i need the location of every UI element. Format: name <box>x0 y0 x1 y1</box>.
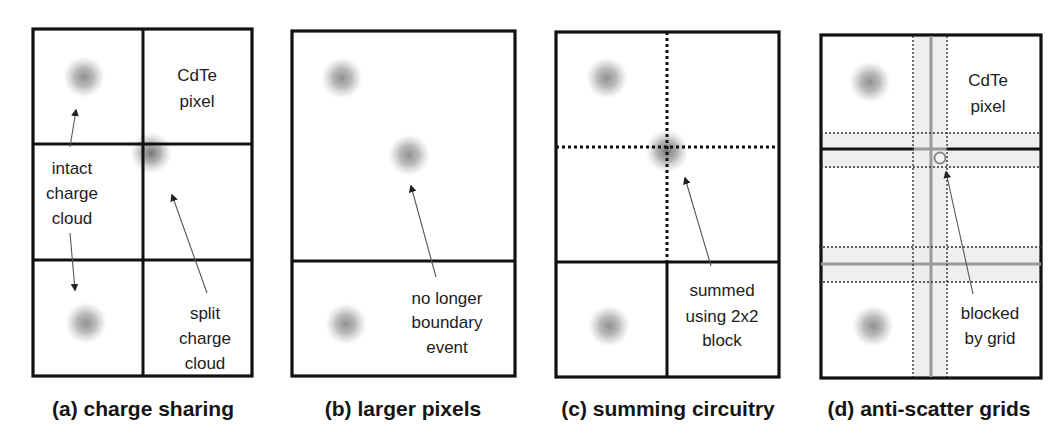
summed-2x2-block-label: block <box>702 331 742 350</box>
panel-caption: (b) larger pixels <box>325 397 481 420</box>
no-longer-boundary-event-label: no longer <box>412 289 483 308</box>
panel-c-summing-circuitry: summed using 2x2 block (c) summing circu… <box>556 32 779 420</box>
no-longer-boundary-event-label: event <box>426 338 468 357</box>
cdte-pixel-label: pixel <box>180 92 215 111</box>
intact-charge-cloud-label: intact <box>52 159 93 178</box>
blocked-event-circle-icon <box>935 153 946 164</box>
charge-cloud-icon <box>320 56 364 100</box>
panel-a-charge-sharing: CdTe pixel intact charge cloud split cha… <box>33 29 252 420</box>
charge-cloud-icon <box>62 55 106 99</box>
arrow-icon <box>411 186 436 277</box>
arrow-icon <box>172 195 207 293</box>
panel-d-anti-scatter-grids: CdTe pixel blocked by grid (d) anti-scat… <box>819 35 1042 420</box>
charge-cloud-icon <box>848 60 892 104</box>
charge-cloud-icon <box>587 304 631 348</box>
summed-2x2-block-label: using 2x2 <box>686 307 759 326</box>
no-longer-boundary-event-label: boundary <box>412 313 483 332</box>
charge-cloud-icon <box>585 56 629 100</box>
panel-caption: (d) anti-scatter grids <box>827 397 1030 420</box>
blocked-by-grid-label: blocked <box>961 304 1020 323</box>
split-charge-cloud-icon <box>129 131 173 175</box>
figure-canvas: CdTe pixel intact charge cloud split cha… <box>0 0 1062 441</box>
split-charge-cloud-label: split <box>190 304 221 323</box>
cdte-pixel-label: pixel <box>971 97 1006 116</box>
arrow-icon <box>70 110 76 147</box>
split-charge-cloud-label: charge <box>179 329 231 348</box>
panel-b-larger-pixels: no longer boundary event (b) larger pixe… <box>292 31 515 420</box>
panel-caption: (a) charge sharing <box>52 397 234 420</box>
charge-cloud-icon <box>324 302 368 346</box>
split-charge-cloud-label: cloud <box>185 354 226 373</box>
blocked-by-grid-label: by grid <box>964 329 1015 348</box>
charge-cloud-icon <box>387 133 431 177</box>
charge-cloud-icon <box>851 304 895 348</box>
charge-cloud-icon <box>64 301 108 345</box>
cdte-pixel-label: CdTe <box>968 71 1008 90</box>
summed-2x2-block-label: summed <box>689 281 754 300</box>
intact-charge-cloud-label: cloud <box>52 209 93 228</box>
cdte-pixel-label: CdTe <box>177 66 217 85</box>
arrow-icon <box>685 178 711 266</box>
intact-charge-cloud-label: charge <box>46 184 98 203</box>
panel-caption: (c) summing circuitry <box>561 397 775 420</box>
